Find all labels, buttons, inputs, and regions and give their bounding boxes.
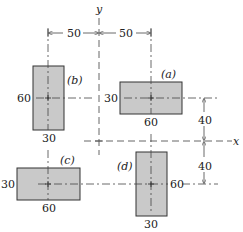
dim-top-right: 50: [119, 27, 133, 40]
rect-a-width: 60: [144, 116, 158, 129]
rect-c-tag: (c): [60, 154, 75, 167]
rect-c-height: 30: [1, 178, 15, 191]
rect-b-width: 30: [42, 132, 56, 145]
x-axis-label: x: [233, 135, 240, 148]
top-dimension: [48, 29, 151, 37]
rect-b-height: 60: [17, 92, 31, 105]
rect-a-height: 30: [104, 92, 118, 105]
y-axis-label: y: [95, 3, 103, 16]
dim-top-left: 50: [67, 27, 81, 40]
rect-d-tag: (d): [117, 160, 133, 173]
rect-a-tag: (a): [161, 68, 176, 81]
dim-right-upper: 40: [198, 114, 212, 127]
rect-b-tag: (b): [67, 74, 83, 87]
rect-d-height: 60: [170, 178, 184, 191]
dim-right-lower: 40: [198, 160, 212, 173]
rect-d-width: 30: [144, 218, 158, 231]
rect-c-width: 60: [42, 202, 56, 215]
rectangles-diagram: y x 50 50 40 40 (a) 30 60 (b) 60 30 (c) …: [0, 0, 243, 232]
